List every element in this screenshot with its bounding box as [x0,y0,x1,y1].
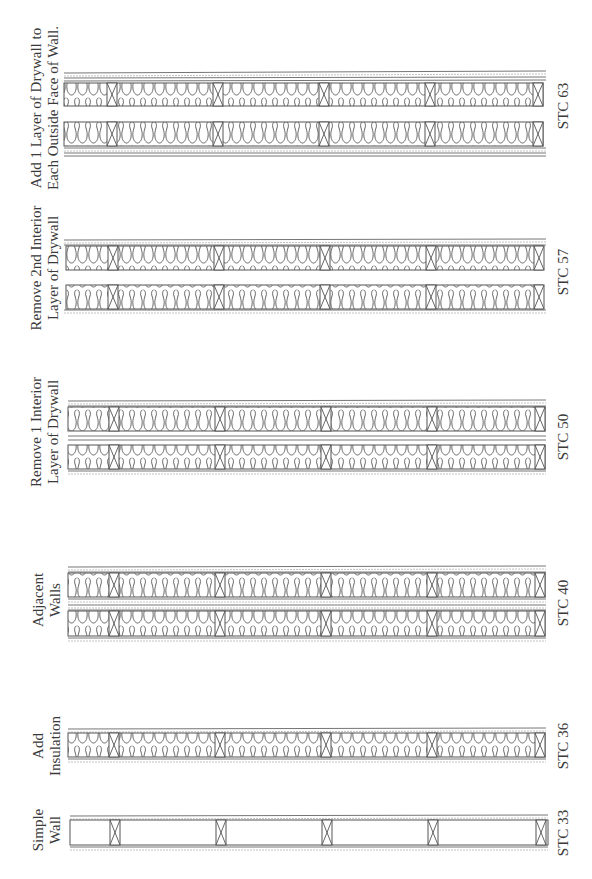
label-line: Layer of Drywall [45,377,62,487]
stc-rating-36: STC 36 [555,723,572,769]
assembly-simple-wall [70,815,548,850]
stc-rating-57: STC 57 [555,249,572,295]
label-line: Wall [47,809,64,852]
label-line: Add 1 Layer of Drywall to [28,26,45,190]
label-adjacent-walls: Adjacent Walls [30,573,64,627]
assembly-remove-2nd-interior [64,239,546,313]
label-line: Add [30,716,47,776]
assembly-add-outside-drywall [64,71,546,156]
assembly-add-insulation [68,728,546,762]
assembly-adjacent-walls [68,566,546,641]
stc-rating-63: STC 63 [555,83,572,129]
label-add-insulation: Add Insulation [30,716,64,776]
label-line: Each Outside Face of Wall. [45,26,62,190]
label-remove-2nd-interior: Remove 2nd Interior Layer of Drywall [28,206,62,331]
label-remove-1-interior: Remove 1 Interior Layer of Drywall [28,377,62,487]
label-line: Insulation [47,716,64,776]
label-simple-wall: Simple Wall [30,809,64,852]
label-line: Adjacent [30,573,47,627]
label-add-outside-drywall: Add 1 Layer of Drywall to Each Outside F… [28,26,62,190]
wall-assembly-diagram [0,0,592,879]
stc-rating-40: STC 40 [555,580,572,626]
label-line: Walls [47,573,64,627]
label-line: Layer of Drywall [45,206,62,331]
label-line: Simple [30,809,47,852]
stc-rating-33: STC 33 [555,810,572,856]
assembly-remove-1-interior [68,400,546,474]
stc-rating-50: STC 50 [555,414,572,460]
label-line: Remove 1 Interior [28,377,45,487]
label-line: Remove 2nd Interior [28,206,45,331]
